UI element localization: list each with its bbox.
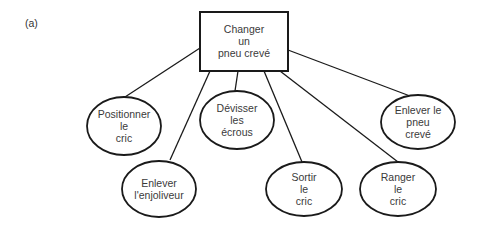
node-ranger-label: Ranger le cric bbox=[360, 171, 436, 207]
node-enlever-pneu-label: Enlever le pneu crevé bbox=[381, 104, 455, 140]
connector-enlever-pneu bbox=[288, 50, 410, 96]
connector-positionner bbox=[125, 48, 200, 97]
node-devisser-label: Dévisser les écrous bbox=[200, 102, 274, 138]
root-label: Changer un pneu crevé bbox=[200, 23, 288, 59]
node-positionner-label: Positionner le cric bbox=[87, 108, 161, 144]
connector-devisser bbox=[235, 71, 238, 91]
node-sortir-label: Sortir le cric bbox=[266, 171, 342, 207]
node-enjoliveur-label: Enlever l'enjoliveur bbox=[122, 177, 196, 201]
